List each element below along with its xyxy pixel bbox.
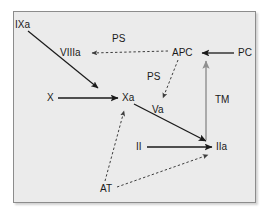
edge-xa-to-iia xyxy=(134,104,206,141)
node-label-ii: II xyxy=(136,142,142,152)
edge-label-ps-viiia: PS xyxy=(112,34,125,44)
edge-at-to-xa xyxy=(105,111,124,181)
node-label-apc: APC xyxy=(172,48,193,58)
node-label-xa: Xa xyxy=(122,93,134,103)
node-label-va: Va xyxy=(152,105,164,115)
node-label-at: AT xyxy=(100,184,112,194)
node-label-pc: PC xyxy=(238,48,252,58)
edge-apc-to-viiia xyxy=(92,51,168,53)
node-label-ixa: IXa xyxy=(15,20,30,30)
diagram-edges xyxy=(0,0,269,218)
edge-label-ps-va: PS xyxy=(147,72,160,82)
node-label-iia: IIa xyxy=(216,142,227,152)
edge-apc-to-va xyxy=(163,60,178,98)
edge-at-to-iia xyxy=(117,155,208,187)
node-label-x: X xyxy=(47,93,54,103)
diagram-screen: IXa VIIIa APC PC X Xa Va II IIa AT PS PS… xyxy=(0,0,269,218)
edge-label-tm: TM xyxy=(215,95,229,105)
edge-ixa-to-xa xyxy=(28,31,98,88)
node-label-viiia: VIIIa xyxy=(60,48,81,58)
